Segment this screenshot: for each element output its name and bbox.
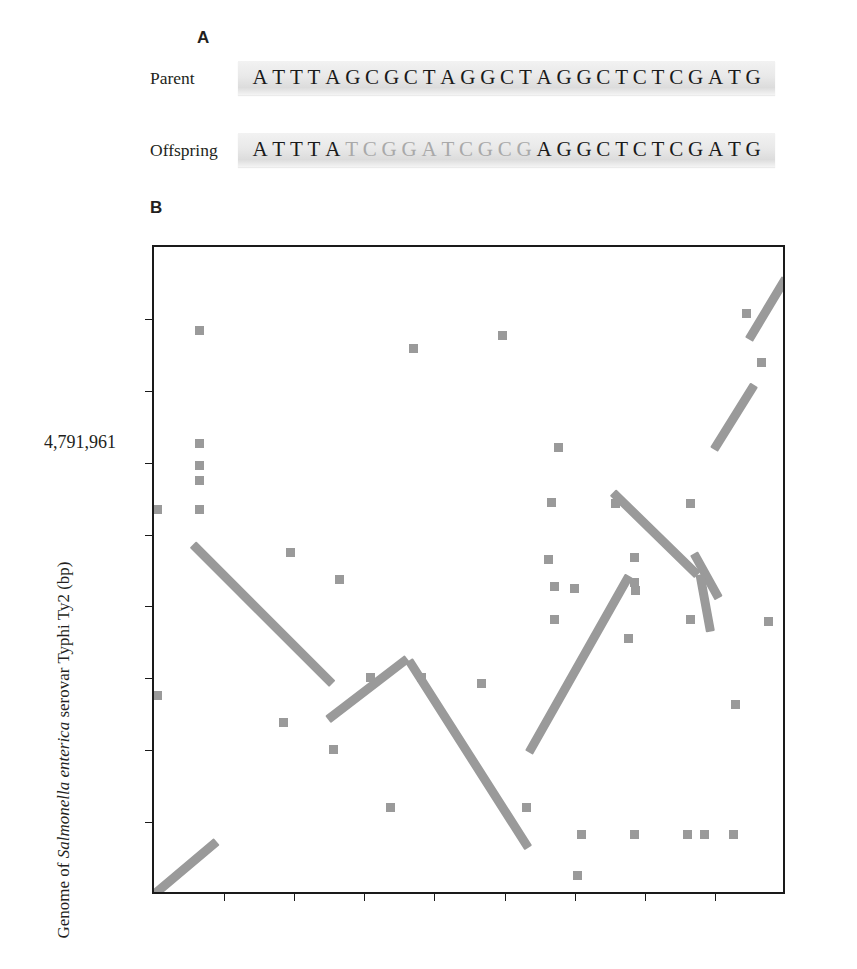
- dna-base: T: [288, 139, 306, 160]
- dot-plot-point: [731, 700, 740, 709]
- panel-a-letter: A: [197, 28, 209, 48]
- dna-base: C: [457, 139, 476, 160]
- dna-base: G: [743, 139, 763, 160]
- dna-base: T: [439, 139, 457, 160]
- dot-plot-point: [757, 358, 766, 367]
- x-axis-tick: [645, 892, 646, 901]
- dna-base: T: [270, 139, 288, 160]
- dot-plot-point: [577, 830, 586, 839]
- dna-base: G: [686, 67, 706, 88]
- dna-base: T: [725, 139, 743, 160]
- dna-base: T: [270, 67, 288, 88]
- dot-plot-point: [729, 830, 738, 839]
- dot-plot-point: [573, 871, 582, 880]
- dot-plot-point: [154, 691, 162, 700]
- dot-plot-point: [686, 615, 695, 624]
- y-axis-tick: [145, 463, 154, 464]
- x-axis-tick: [294, 892, 295, 901]
- dot-plot-point: [329, 745, 338, 754]
- dna-base: A: [323, 67, 343, 88]
- dna-base: G: [478, 67, 498, 88]
- dot-plot-point: [409, 344, 418, 353]
- dna-base: G: [574, 139, 594, 160]
- x-axis-tick: [434, 892, 435, 901]
- y-axis-title: Genome of Salmonella enterica serovar Ty…: [54, 490, 74, 969]
- panel-b-dot-plot: B 4,791,961 0 0 4,857,432 Genome of Salm…: [0, 200, 857, 969]
- dot-plot-point: [522, 803, 531, 812]
- dot-plot-point: [544, 555, 553, 564]
- dot-plot-point: [154, 505, 162, 514]
- dot-plot-point: [195, 476, 204, 485]
- dna-base: G: [574, 67, 594, 88]
- y-axis-title-species: Salmonella enterica: [54, 722, 73, 858]
- dot-plot-point: [498, 331, 507, 340]
- dna-base: T: [649, 139, 667, 160]
- dot-plot-point: [611, 499, 620, 508]
- dot-plot-point: [547, 498, 556, 507]
- dna-base: G: [379, 139, 399, 160]
- dot-plot-point: [550, 615, 559, 624]
- dot-plot-point: [624, 634, 633, 643]
- dot-plot-point: [195, 461, 204, 470]
- dna-base: C: [630, 67, 649, 88]
- dot-plot-segment: [325, 655, 410, 723]
- dot-plot-point: [630, 553, 639, 562]
- panel-a: A Parent ATTTAGCGCTAGGCTAGGCTCTCGATG Off…: [0, 0, 857, 200]
- dna-base: C: [594, 139, 613, 160]
- dna-base: G: [381, 67, 401, 88]
- dna-base: C: [360, 139, 379, 160]
- dna-base: G: [458, 67, 478, 88]
- dna-base: C: [495, 139, 514, 160]
- dna-base: T: [613, 139, 631, 160]
- dot-plot-point: [630, 578, 639, 587]
- x-axis-tick: [505, 892, 506, 901]
- dna-base: G: [475, 139, 495, 160]
- x-axis-tick: [224, 892, 225, 901]
- dna-base: G: [514, 139, 534, 160]
- sequence-band-parent: ATTTAGCGCTAGGCTAGGCTCTCGATG: [238, 61, 775, 95]
- dna-base: T: [343, 139, 361, 160]
- dot-plot-point: [631, 586, 640, 595]
- y-axis-tick: [145, 535, 154, 536]
- sequence-label-offspring: Offspring: [150, 140, 238, 161]
- dna-base: A: [534, 67, 554, 88]
- dna-base: C: [667, 67, 686, 88]
- dot-plot-segment: [154, 838, 219, 892]
- y-axis-tick: [145, 319, 154, 320]
- dna-base: C: [667, 139, 686, 160]
- dot-plot-point: [195, 326, 204, 335]
- dot-plot-segment: [710, 383, 758, 453]
- dot-plot-point: [700, 830, 709, 839]
- dna-base: A: [706, 67, 726, 88]
- dot-plot-point: [417, 673, 426, 682]
- dna-base: G: [743, 67, 763, 88]
- sequence-band-offspring: ATTTATCGGATCGCGAGGCTCTCGATG: [238, 133, 775, 167]
- dna-base: C: [498, 67, 517, 88]
- dot-plot-point: [335, 575, 344, 584]
- panel-b-letter: B: [150, 198, 162, 218]
- sequence-row-offspring: Offspring ATTTATCGGATCGCGAGGCTCTCGATG: [150, 130, 775, 170]
- dot-plot-point: [764, 617, 773, 626]
- dot-plot-point: [195, 439, 204, 448]
- y-axis-tick: [145, 822, 154, 823]
- sequence-row-parent: Parent ATTTAGCGCTAGGCTAGGCTCTCGATG: [150, 58, 775, 98]
- dna-base: C: [630, 139, 649, 160]
- dna-base: T: [288, 67, 306, 88]
- dna-base: C: [401, 67, 420, 88]
- dna-base: G: [686, 139, 706, 160]
- plot-frame: [152, 245, 785, 894]
- dna-base: A: [250, 139, 270, 160]
- y-axis-tick: [145, 750, 154, 751]
- y-axis-max-label: 4,791,961: [44, 432, 116, 453]
- dot-plot-point: [630, 830, 639, 839]
- y-axis-title-pre: Genome of: [54, 858, 73, 938]
- dna-base: A: [534, 139, 554, 160]
- dna-base: G: [554, 139, 574, 160]
- plot-area: [154, 247, 783, 892]
- sequence-label-parent: Parent: [150, 68, 238, 89]
- dot-plot-point: [570, 584, 579, 593]
- dna-base: T: [613, 67, 631, 88]
- dna-base: T: [305, 67, 323, 88]
- dna-base: A: [706, 139, 726, 160]
- dot-plot-segment: [526, 573, 634, 754]
